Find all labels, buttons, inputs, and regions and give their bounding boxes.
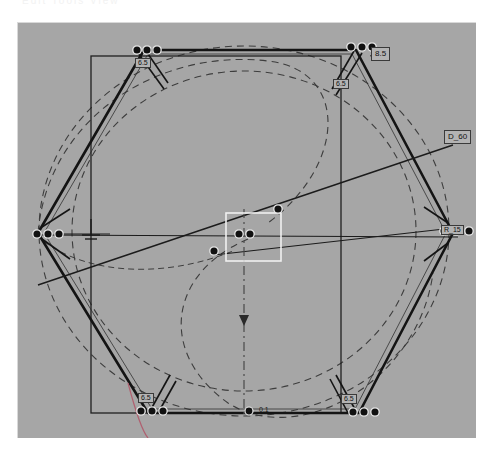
handle-group-left[interactable]: [33, 230, 63, 238]
dimension-chip-bottom-left[interactable]: 6.5: [138, 393, 154, 403]
handle-bottom-center[interactable]: [245, 407, 253, 415]
dimension-chip-top-left[interactable]: 6.5: [135, 58, 151, 68]
arc-upper-sweep: [38, 59, 328, 233]
hexagon-profile[interactable]: [38, 50, 453, 413]
dimension-chip-8-5[interactable]: 8.5: [371, 47, 390, 61]
diagonal-line-major: [38, 145, 453, 285]
header-title: Edit Tools View: [22, 0, 119, 6]
dimension-chip-top-right[interactable]: 6.5: [333, 79, 349, 89]
handle-group-top-left[interactable]: [133, 46, 161, 54]
sketch-canvas[interactable]: 8.5 D_60 6.5 6.5 6.5 6.5 R_15 0.1: [17, 22, 476, 438]
header-strip: Edit Tools View: [0, 0, 494, 10]
arc-lower-sweep: [181, 239, 433, 417]
marker-label-bottom-center: 0.1: [256, 404, 272, 416]
dimension-chip-right[interactable]: R_15: [441, 225, 464, 235]
handle-group-bottom-right[interactable]: [349, 408, 379, 416]
frame-rectangle: [91, 56, 341, 413]
application-root: Edit Tools View: [0, 0, 494, 460]
handle-group-bottom-left[interactable]: [137, 407, 167, 415]
sketch-vector-layer: [18, 23, 476, 438]
dimension-chip-bottom-right[interactable]: 6.5: [341, 394, 357, 404]
centerline-arrow-icon: [239, 315, 249, 326]
dimension-chip-diameter[interactable]: D_60: [444, 130, 471, 144]
